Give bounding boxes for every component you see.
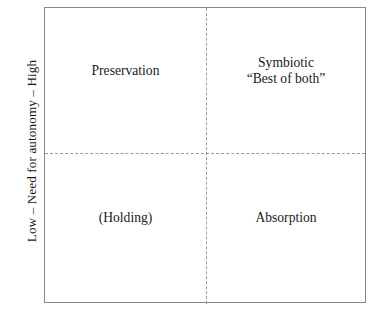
quadrant-preservation-label: Preservation	[92, 63, 160, 79]
quadrant-absorption-label: Absorption	[255, 210, 316, 226]
quadrant-symbiotic-sublabel: “Best of both”	[247, 71, 326, 87]
quadrant-holding: (Holding)	[45, 154, 206, 303]
quadrant-absorption: Absorption	[207, 154, 365, 303]
y-axis-label: Low – Need for autonomy – High	[21, 1, 43, 301]
quadrant-holding-label: (Holding)	[99, 210, 153, 226]
quadrant-symbiotic-label: Symbiotic	[258, 55, 314, 71]
quadrant-preservation: Preservation	[45, 8, 206, 153]
quadrant-symbiotic: Symbiotic “Best of both”	[207, 8, 365, 153]
matrix-frame: Preservation Symbiotic “Best of both” (H…	[44, 7, 366, 303]
strategy-matrix-diagram: Low – Need for autonomy – High Preservat…	[0, 0, 378, 316]
